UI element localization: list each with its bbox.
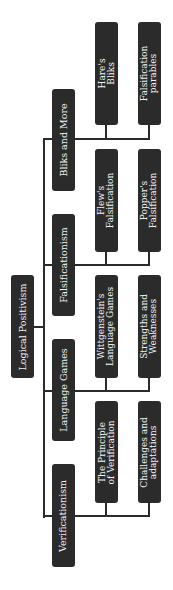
leaf-label-line: Falsification [139, 46, 149, 102]
leaf-label: Hare'sBliks [97, 59, 116, 89]
leaf-label-line: adaptations [149, 425, 159, 479]
branch-node-bliks-and-more: Bliks and More [52, 89, 75, 191]
trunk-line [43, 138, 45, 518]
branch-node-language-games: Language Games [52, 339, 75, 441]
leaf-label-line: Bliks [106, 62, 116, 84]
leaf-label-line: Weaknesses [149, 299, 159, 354]
leaf-label: Flew'sFalsification [97, 173, 116, 229]
branch-node-verificationism: Verificationism [52, 464, 75, 567]
stem-line [148, 125, 150, 139]
leaf-label: Popper'sFalsification [140, 173, 159, 229]
leaf-node: Wittgenstein'sLanguage Games [95, 275, 118, 378]
stem-line [105, 125, 107, 139]
leaf-node: Popper'sFalsification [138, 149, 161, 252]
leaf-node: Hare'sBliks [95, 22, 118, 125]
leaf-label-line: Falsification [106, 173, 116, 229]
branch-label: Verificationism [59, 479, 69, 551]
root-label: Logical Positivism [18, 283, 28, 370]
branch-node-falsificationism: Falsificationism [52, 214, 75, 316]
leaf-label: Challenges andadaptations [140, 417, 159, 487]
leaf-node: Strengths andWeaknesses [138, 275, 161, 378]
leaf-label: Strengths andWeaknesses [140, 294, 159, 359]
leaf-label-line: Falsification [149, 173, 159, 229]
root-node: Logical Positivism [11, 275, 34, 378]
leaf-label-line: Flew's [96, 186, 106, 215]
stem-line [105, 252, 107, 265]
leaf-label: Wittgenstein'sLanguage Games [97, 287, 116, 366]
leaf-label-line: Language Games [106, 287, 116, 366]
leaf-node: Challenges andadaptations [138, 401, 161, 503]
leaf-node: Flew'sFalsification [95, 149, 118, 252]
leaf-label: The Principleof Verification [97, 420, 116, 484]
branch-label: Falsificationism [59, 227, 69, 303]
stem-line [148, 378, 150, 391]
leaf-label-line: Popper's [139, 181, 149, 220]
branch-label: Bliks and More [59, 103, 69, 176]
leaf-label: Falsificationparables [140, 46, 159, 102]
leaf-node: The Principleof Verification [95, 401, 118, 503]
stem-line [105, 503, 107, 516]
leaf-label-line: parables [149, 54, 159, 93]
leaf-label-line: The Principle [96, 422, 106, 483]
leaf-node: Falsificationparables [138, 22, 161, 125]
leaf-label-line: of Verification [106, 420, 116, 484]
branch-label: Language Games [59, 348, 69, 431]
stem-line [148, 252, 150, 265]
stem-line [148, 503, 150, 516]
leaf-label-line: Hare's [96, 59, 106, 89]
stem-line [105, 378, 107, 391]
